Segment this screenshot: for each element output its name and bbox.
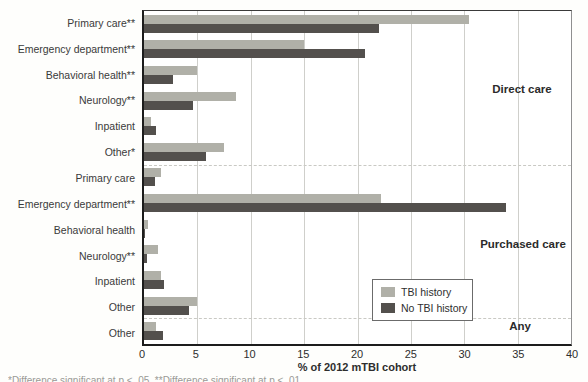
x-tick-label: 25 [405, 348, 417, 360]
bar-no-tbi-history [144, 306, 189, 315]
bar-pair [144, 113, 571, 139]
bar-no-tbi-history [144, 75, 173, 84]
section-label-purchased-care: Purchased care [460, 238, 586, 250]
bar-no-tbi-history [144, 49, 365, 58]
category-label: Inpatient [0, 113, 135, 139]
category-label: Other [0, 320, 135, 346]
category-label: Inpatient [0, 268, 135, 294]
category-label: Primary care [0, 165, 135, 191]
x-tick-label: 35 [512, 348, 524, 360]
bar-tbi-history [144, 220, 148, 229]
bar-tbi-history [144, 117, 151, 126]
bar-tbi-history [144, 92, 236, 101]
bar-pair [144, 139, 571, 165]
category-label: Other* [0, 139, 135, 165]
bar-no-tbi-history [144, 254, 147, 263]
legend: TBI history No TBI history [372, 279, 473, 321]
bar-tbi-history [144, 297, 197, 306]
category-axis: Primary care**Emergency department**Beha… [0, 10, 135, 346]
bar-tbi-history [144, 245, 158, 254]
legend-entry-tbi-history: TBI history [381, 286, 464, 298]
legend-entry-no-tbi-history: No TBI history [381, 302, 464, 314]
x-tick-label: 5 [193, 348, 199, 360]
bar-no-tbi-history [144, 177, 155, 186]
category-label: Neurology** [0, 88, 135, 114]
legend-swatch [381, 287, 395, 297]
x-tick-label: 15 [297, 348, 309, 360]
category-label: Neurology** [0, 243, 135, 269]
section-label-direct-care: Direct care [478, 83, 566, 95]
chart-figure: Primary care**Emergency department**Beha… [0, 0, 588, 382]
bar-tbi-history [144, 40, 304, 49]
legend-label: No TBI history [401, 302, 467, 314]
category-label: Primary care** [0, 10, 135, 36]
x-tick-label: 20 [351, 348, 363, 360]
x-axis-ticks: 0510152025303540 [142, 348, 572, 361]
bar-pair [144, 190, 571, 216]
bar-tbi-history [144, 143, 224, 152]
bar-tbi-history [144, 271, 161, 280]
bar-tbi-history [144, 15, 469, 24]
plot-rows [144, 11, 571, 344]
bar-no-tbi-history [144, 24, 379, 33]
legend-label: TBI history [401, 286, 451, 298]
bar-tbi-history [144, 194, 381, 203]
category-label: Emergency department** [0, 191, 135, 217]
footnote-clipped: *Difference significant at p < .05. **Di… [8, 375, 428, 382]
bar-pair [144, 267, 571, 293]
bar-no-tbi-history [144, 331, 163, 340]
category-label: Behavioral health [0, 217, 135, 243]
bar-pair [144, 165, 571, 191]
bar-tbi-history [144, 66, 197, 75]
section-separator [144, 165, 571, 166]
x-tick-label: 0 [139, 348, 145, 360]
x-axis-title: % of 2012 mTBI cohort [142, 361, 572, 373]
category-label: Other [0, 294, 135, 320]
x-tick-label: 40 [566, 348, 578, 360]
bar-tbi-history [144, 168, 161, 177]
bar-pair [144, 37, 571, 63]
category-label: Emergency department** [0, 36, 135, 62]
x-tick-label: 10 [243, 348, 255, 360]
bar-no-tbi-history [144, 152, 206, 161]
bar-no-tbi-history [144, 203, 506, 212]
bar-no-tbi-history [144, 280, 164, 289]
section-label-any: Any [494, 320, 546, 332]
bar-pair [144, 11, 571, 37]
legend-swatch [381, 303, 395, 313]
bar-pair [144, 293, 571, 319]
bar-no-tbi-history [144, 126, 156, 135]
bar-no-tbi-history [144, 229, 145, 238]
category-label: Behavioral health** [0, 62, 135, 88]
bar-tbi-history [144, 322, 156, 331]
plot-area [142, 10, 572, 346]
x-tick-label: 30 [458, 348, 470, 360]
bar-no-tbi-history [144, 101, 193, 110]
